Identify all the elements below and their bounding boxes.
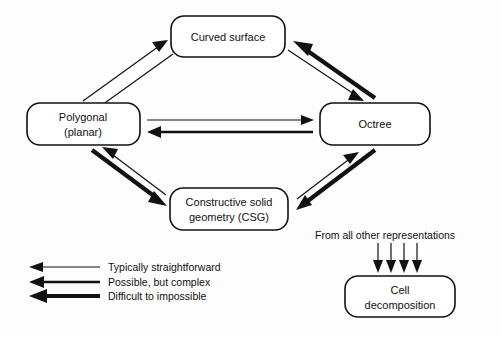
node-csg-label-line2: geometry (CSG) [189,211,269,223]
legend-label-difficult-to-impossible: Difficult to impossible [108,290,207,302]
edge-polygonal-to-curved [83,40,168,101]
annotation-from-all-other-representations: From all other representations [315,229,455,241]
legend: Typically straightforward Possible, but … [29,261,221,303]
node-cell-decomposition-label-line2: decomposition [365,299,436,311]
edge-csg-to-polygonal [102,147,166,195]
edge-polygonal-to-octree [147,115,314,125]
edge-octree-to-curved [293,41,375,98]
legend-item-typically-straightforward: Typically straightforward [29,261,221,273]
node-cell-decomposition-label-line1: Cell [391,284,410,296]
edge-csg-to-octree [297,152,359,199]
node-curved-surface-label: Curved surface [191,31,266,43]
node-csg-box[interactable] [170,188,288,230]
node-polygonal-label-line2: (planar) [64,126,102,138]
node-curved-surface[interactable]: Curved surface [171,16,285,57]
node-polygonal-label-line1: Polygonal [59,111,107,123]
legend-arrowhead-thin [29,262,43,272]
annotation-arrow-2 [386,243,396,273]
node-polygonal-box[interactable] [27,103,140,145]
node-octree[interactable]: Octree [320,103,430,145]
legend-label-typically-straightforward: Typically straightforward [108,261,221,273]
edge-octree-to-csg [296,150,375,210]
annotation-arrow-1 [373,243,383,273]
legend-label-possible-but-complex: Possible, but complex [108,276,211,288]
legend-arrowhead-thick [29,289,47,303]
legend-item-possible-but-complex: Possible, but complex [29,276,211,288]
node-csg-label-line1: Constructive solid [186,196,273,208]
legend-arrowhead-medium [29,276,44,288]
edge-curved-to-octree [288,50,364,101]
node-csg[interactable]: Constructive solid geometry (CSG) [170,188,288,230]
annotation-arrow-3 [399,243,409,273]
representation-conversion-diagram: Curved surface Polygonal (planar) Octree… [0,0,502,337]
legend-item-difficult-to-impossible: Difficult to impossible [29,289,207,303]
diagram-canvas: Curved surface Polygonal (planar) Octree… [0,0,502,337]
edge-octree-to-polygonal [147,126,313,138]
node-cell-decomposition[interactable]: Cell decomposition [345,276,455,317]
node-polygonal[interactable]: Polygonal (planar) [27,103,140,145]
node-octree-label: Octree [358,118,391,130]
annotation-arrow-4 [412,243,422,273]
edge-polygonal-to-csg [92,150,167,206]
